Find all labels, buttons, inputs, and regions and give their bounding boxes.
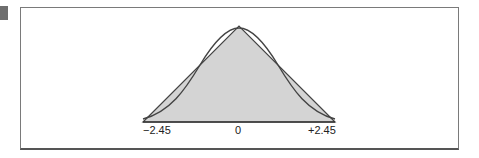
tick-label-center: 0 [235,124,241,136]
tick-label-left: −2.45 [143,124,171,136]
tick-label-right: +2.45 [308,124,336,136]
triangle-area [143,26,335,122]
